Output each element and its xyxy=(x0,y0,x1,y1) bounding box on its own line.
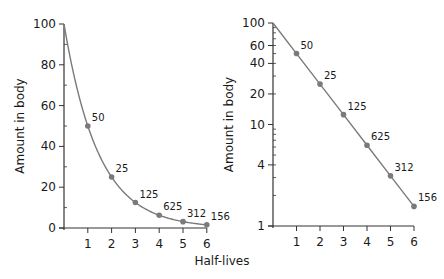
data-point xyxy=(204,222,210,228)
data-point xyxy=(317,81,323,87)
x-axis-title: Half-lives xyxy=(194,254,249,268)
y-tick-label: 100 xyxy=(33,17,56,31)
data-point xyxy=(85,123,91,129)
data-point xyxy=(364,142,370,148)
log-chart: 1410204060100123456Amount in body5025125… xyxy=(222,16,437,249)
point-label: 156 xyxy=(211,211,230,222)
point-label: 50 xyxy=(301,40,314,51)
x-tick-label: 6 xyxy=(203,237,211,251)
point-label: 25 xyxy=(116,163,129,174)
y-tick-label: 0 xyxy=(48,221,56,235)
half-life-figure: 020406080100123456Amount in body50251256… xyxy=(0,0,444,279)
point-label: 312 xyxy=(395,162,414,173)
y-axis-title: Amount in body xyxy=(222,77,236,172)
x-tick-label: 4 xyxy=(155,237,163,251)
data-curve xyxy=(64,24,207,225)
y-tick-label: 60 xyxy=(250,39,265,53)
data-point xyxy=(388,173,394,179)
x-tick-label: 5 xyxy=(387,235,395,249)
x-tick-label: 5 xyxy=(179,237,187,251)
point-label: 625 xyxy=(163,201,182,212)
data-point xyxy=(341,112,347,118)
point-label: 125 xyxy=(348,101,367,112)
x-tick-label: 1 xyxy=(293,235,301,249)
y-tick-label: 40 xyxy=(41,139,56,153)
y-tick-label: 100 xyxy=(242,16,265,30)
point-label: 156 xyxy=(418,192,437,203)
y-tick-label: 20 xyxy=(250,87,265,101)
y-tick-label: 10 xyxy=(250,118,265,132)
y-tick-label: 80 xyxy=(41,58,56,72)
data-point xyxy=(156,212,162,218)
x-tick-label: 6 xyxy=(410,235,418,249)
x-tick-label: 3 xyxy=(340,235,348,249)
data-point xyxy=(294,51,300,57)
x-tick-label: 1 xyxy=(84,237,92,251)
point-label: 25 xyxy=(324,70,337,81)
y-tick-label: 20 xyxy=(41,180,56,194)
x-tick-label: 2 xyxy=(316,235,324,249)
point-label: 125 xyxy=(139,189,158,200)
point-label: 50 xyxy=(92,112,105,123)
x-tick-label: 2 xyxy=(108,237,116,251)
data-point xyxy=(109,174,115,180)
x-tick-label: 4 xyxy=(363,235,371,249)
y-tick-label: 60 xyxy=(41,99,56,113)
point-label: 625 xyxy=(371,131,390,142)
y-axis-title: Amount in body xyxy=(13,78,27,173)
y-tick-label: 40 xyxy=(250,56,265,70)
data-point xyxy=(411,204,417,210)
x-tick-label: 3 xyxy=(132,237,140,251)
linear-chart: 020406080100123456Amount in body50251256… xyxy=(13,17,230,251)
y-tick-label: 1 xyxy=(257,219,265,233)
data-point xyxy=(133,200,139,206)
data-point xyxy=(180,219,186,225)
y-tick-label: 4 xyxy=(257,158,265,172)
point-label: 312 xyxy=(187,208,206,219)
